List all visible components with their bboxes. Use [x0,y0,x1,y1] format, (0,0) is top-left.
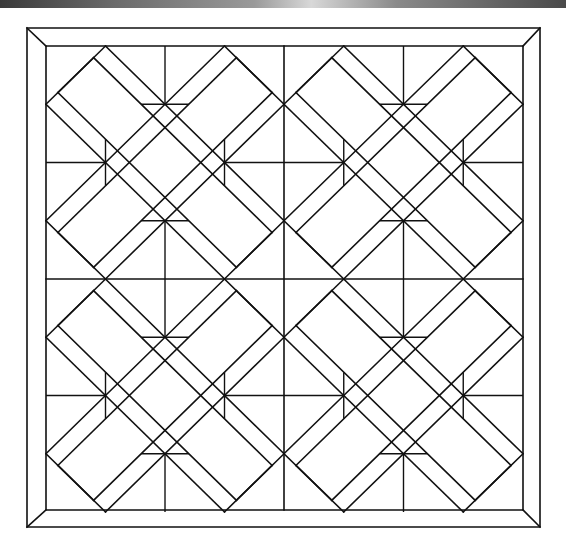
miter-bottom-right [523,510,540,527]
block-bottom-left [46,279,284,512]
block-bottom-right [284,279,523,512]
miter-top-left [27,28,46,46]
miter-bottom-left [27,510,46,527]
block-top-right [284,46,523,279]
miter-top-right [523,28,540,46]
block-top-left [46,46,284,279]
quilt-diagram [0,0,566,553]
